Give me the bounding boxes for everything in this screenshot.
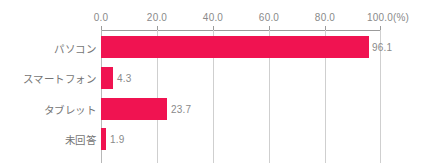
category-label-0: パソコン: [54, 41, 96, 56]
category-label-3: 未回答: [65, 132, 97, 147]
x-tick-label-2: 40.0: [203, 12, 223, 23]
bar-value-label-0: 96.1: [372, 42, 392, 53]
bar-pasokon: [101, 36, 369, 58]
bar-value-label-2: 23.7: [171, 104, 191, 115]
bar-smartphone: [101, 67, 113, 89]
x-tick-label-3: 60.0: [259, 12, 279, 23]
bar-value-label-1: 4.3: [117, 73, 132, 84]
x-tick-label-1: 20.0: [147, 12, 167, 23]
bar-tablet: [101, 98, 167, 120]
x-tick-label-0: 0.0: [94, 12, 109, 23]
x-tick-label-4: 80.0: [315, 12, 335, 23]
category-label-1: スマートフォン: [23, 71, 97, 86]
bar-chart: 0.0 20.0 40.0 60.0 80.0 100.0(%) パソコン スマ…: [0, 0, 431, 163]
category-label-2: タブレット: [44, 102, 97, 117]
bar-value-label-3: 1.9: [110, 134, 125, 145]
x-tick-label-5: 100.0(%): [367, 12, 409, 23]
bar-mukaitou: [101, 128, 106, 150]
